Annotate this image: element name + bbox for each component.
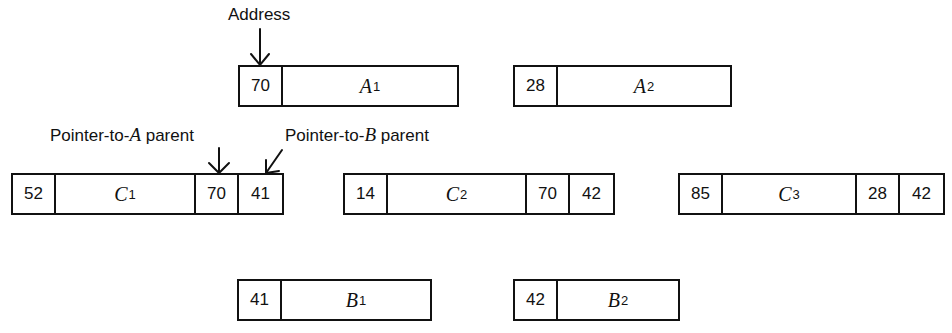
data-cell: A1	[283, 67, 457, 105]
address-cell: 28	[515, 67, 558, 105]
record-name: A	[634, 75, 646, 98]
record-subscript: 2	[621, 293, 628, 308]
record-subscript: 1	[359, 293, 366, 308]
pointer-b-arrow-icon	[266, 150, 282, 173]
record-c3: 85 C3 28 42	[678, 173, 945, 215]
record-name: C	[114, 183, 127, 206]
record-a1: 70 A1	[238, 65, 459, 107]
data-cell: B1	[282, 281, 430, 319]
record-c2: 14 C2 70 42	[343, 173, 615, 215]
record-subscript: 2	[647, 79, 654, 94]
data-cell: C3	[723, 175, 857, 213]
data-cell: A2	[558, 67, 730, 105]
address-cell: 41	[239, 281, 282, 319]
pointer-a-cell: 28	[857, 175, 900, 213]
pointer-b-cell: 42	[570, 175, 613, 213]
address-cell: 42	[515, 281, 558, 319]
pointer-a-cell: 70	[527, 175, 570, 213]
record-b2: 42 B2	[513, 279, 680, 321]
record-name: C	[778, 183, 791, 206]
record-subscript: 3	[793, 187, 800, 202]
record-subscript: 1	[129, 187, 136, 202]
pointer-b-cell: 42	[900, 175, 943, 213]
address-cell: 14	[345, 175, 388, 213]
record-subscript: 1	[373, 79, 380, 94]
data-cell: B2	[558, 281, 678, 319]
record-a2: 28 A2	[513, 65, 732, 107]
record-c1: 52 C1 70 41	[11, 173, 284, 215]
address-cell: 70	[240, 67, 283, 105]
record-subscript: 2	[460, 187, 467, 202]
data-cell: C2	[388, 175, 527, 213]
record-name: C	[446, 183, 459, 206]
record-name: B	[346, 289, 358, 312]
record-b1: 41 B1	[237, 279, 432, 321]
data-cell: C1	[56, 175, 196, 213]
arrows	[0, 0, 952, 333]
address-cell: 52	[13, 175, 56, 213]
address-arrow-icon	[251, 29, 269, 65]
address-cell: 85	[680, 175, 723, 213]
record-name: A	[360, 75, 372, 98]
record-name: B	[608, 289, 620, 312]
pointer-b-cell: 41	[239, 175, 282, 213]
pointer-a-cell: 70	[196, 175, 239, 213]
pointer-a-arrow-icon	[209, 148, 229, 173]
